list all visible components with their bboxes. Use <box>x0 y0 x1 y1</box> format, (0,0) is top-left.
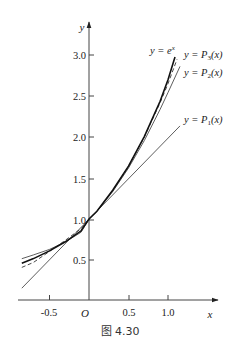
y-tick-label: 0.5 <box>73 255 86 266</box>
x-tick-label: 1.0 <box>161 307 174 318</box>
curve-p2 <box>22 66 180 258</box>
x-tick-label: 0.5 <box>122 307 135 318</box>
label-p1: y = P1(x) <box>183 114 223 127</box>
x-tick-label: -0.5 <box>41 307 58 318</box>
chart-canvas: -0.5 O 0.5 1.0 x 0.5 1.0 1.5 2.0 2.5 3.0… <box>0 0 239 351</box>
x-ticks <box>50 295 169 300</box>
curve-exp <box>22 57 175 263</box>
origin-label: O <box>81 307 89 319</box>
y-tick-label: 1.5 <box>73 174 86 185</box>
x-axis-label: x <box>207 308 213 320</box>
figure-caption: 图 4.30 <box>101 325 140 338</box>
label-exp: y = ex <box>149 44 176 56</box>
label-p3: y = P3(x) <box>183 49 223 62</box>
taylor-approximation-figure: -0.5 O 0.5 1.0 x 0.5 1.0 1.5 2.0 2.5 3.0… <box>0 0 239 351</box>
y-axis-label: y <box>79 21 85 33</box>
label-p2: y = P2(x) <box>183 67 223 80</box>
y-tick-label: 3.0 <box>73 50 86 61</box>
y-ticks <box>89 55 94 260</box>
curve-p3 <box>22 59 177 267</box>
y-tick-label: 2.0 <box>73 132 86 143</box>
y-tick-label: 2.5 <box>73 91 86 102</box>
